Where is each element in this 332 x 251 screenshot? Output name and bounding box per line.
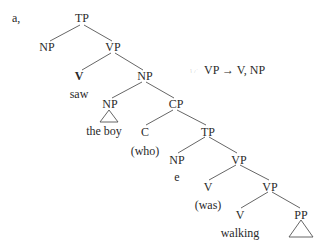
node-tp-root: TP <box>75 12 89 24</box>
node-np-subject: NP <box>39 41 54 53</box>
node-v-main: V <box>75 70 84 82</box>
word-saw: saw <box>70 88 89 100</box>
node-v-was: V <box>204 181 213 193</box>
word-walking: walking <box>221 227 260 239</box>
node-pp: PP <box>294 209 307 221</box>
node-cp: CP <box>169 98 184 110</box>
tree-branches <box>0 0 332 251</box>
node-v-walking: V <box>236 209 245 221</box>
node-vp-main: VP <box>105 41 120 53</box>
phrase-structure-rule: ☞VP → V, NP <box>190 64 265 77</box>
node-np-boy: NP <box>102 98 117 110</box>
rule-text: VP → V, NP <box>204 63 265 77</box>
node-np-empty: NP <box>169 154 184 166</box>
word-was: (was) <box>195 199 222 211</box>
example-label: a, <box>12 11 20 26</box>
pointing-hand-icon: ☞ <box>190 66 198 76</box>
word-the-boy: the boy <box>86 125 122 137</box>
np-triangle <box>100 110 118 122</box>
word-who: (who) <box>131 145 160 157</box>
node-np-object: NP <box>137 70 152 82</box>
node-tp-embedded: TP <box>201 126 215 138</box>
pp-triangle <box>289 220 313 237</box>
word-e: e <box>174 171 179 183</box>
node-vp-embedded: VP <box>231 154 246 166</box>
node-c: C <box>141 126 149 138</box>
node-vp-lower: VP <box>262 181 277 193</box>
